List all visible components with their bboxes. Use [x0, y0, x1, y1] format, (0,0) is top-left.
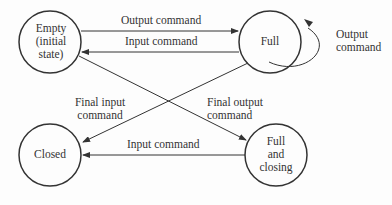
empty-line1: Empty — [26, 22, 76, 35]
fi-line2: command — [60, 109, 140, 122]
empty-line2: (initial — [26, 35, 76, 48]
empty-line3: state) — [26, 48, 76, 61]
self-line1: Output — [336, 28, 381, 41]
state-full-label: Full — [245, 35, 295, 48]
fo-line2: command — [207, 109, 263, 122]
label-output-command: Output command — [121, 14, 201, 27]
fi-line1: Final input — [60, 96, 140, 109]
state-full-closing-label: Full and closing — [251, 135, 301, 174]
state-empty-label: Empty (initial state) — [26, 22, 76, 61]
fo-line1: Final output — [207, 96, 263, 109]
state-closed-label: Closed — [25, 148, 75, 161]
label-self-output: Output command — [336, 28, 381, 54]
fc-line3: closing — [251, 161, 301, 174]
fc-line2: and — [251, 148, 301, 161]
fc-line1: Full — [251, 135, 301, 148]
self-line2: command — [336, 41, 381, 54]
label-input-command: Input command — [125, 35, 198, 48]
label-input-command-bottom: Input command — [127, 138, 200, 151]
label-final-input: Final input command — [60, 96, 140, 122]
label-final-output: Final output command — [207, 96, 263, 122]
